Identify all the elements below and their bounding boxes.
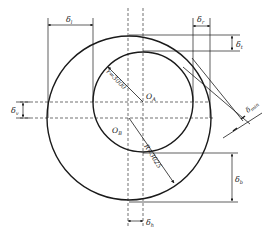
clearance-diagram: δl δr δt δv δb δh δmin OA OB r=3000 R=30… (0, 0, 263, 236)
diagram-svg: δl δr δt δv δb δh δmin OA OB r=3000 R=30… (0, 0, 263, 236)
label-right-bottom-delta: δb (235, 175, 243, 185)
label-top-right-delta: δr (197, 15, 205, 25)
label-top-left-delta: δl (66, 15, 73, 25)
label-diagonal-delta-min: δmin (244, 100, 260, 115)
label-bottom-delta: δh (146, 218, 154, 228)
label-outer-radius: R=3025 (142, 142, 164, 170)
label-center-b: OB (112, 126, 122, 136)
center-lines (20, 8, 215, 228)
label-center-a: OA (146, 92, 156, 102)
label-inner-radius: r=3000 (105, 68, 128, 91)
label-right-top-delta: δt (236, 40, 244, 50)
label-left-middle-delta: δv (11, 106, 19, 116)
